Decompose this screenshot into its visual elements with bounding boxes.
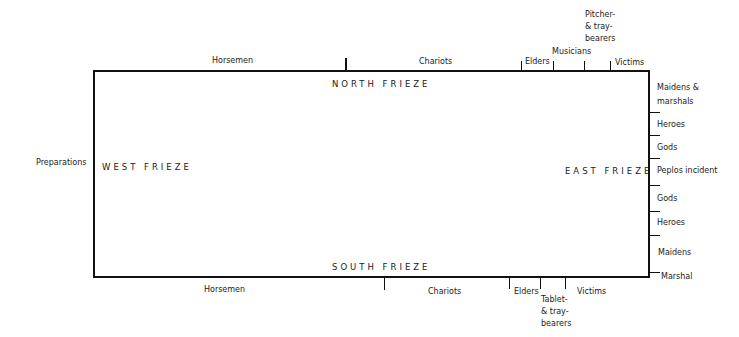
north-divider-tick — [584, 61, 585, 71]
south-section-victims: Victims — [577, 286, 606, 297]
north-section-chariots: Chariots — [419, 56, 452, 67]
south-section-elders: Elders — [514, 286, 539, 297]
north-divider-tick — [610, 61, 611, 71]
east-section-heroes-1: Heroes — [657, 119, 685, 130]
south-section-horsemen: Horsemen — [204, 284, 245, 295]
north-section-musicians: Musicians — [552, 46, 591, 57]
east-section-maidens-marshals: Maidens & marshals — [657, 81, 699, 109]
north-divider-tick — [553, 61, 554, 71]
south-divider-tick — [540, 277, 541, 289]
north-frieze-label: NORTH FRIEZE — [332, 79, 431, 89]
west-frieze-label: WEST FRIEZE — [102, 162, 192, 172]
south-section-chariots: Chariots — [428, 286, 461, 297]
south-divider-tick — [384, 277, 385, 290]
east-section-marshal: Marshal — [661, 271, 692, 282]
north-divider-tick — [521, 61, 522, 71]
east-divider-tick — [649, 158, 660, 159]
south-section-tablet-bearers: Tablet- & tray- bearers — [541, 294, 571, 330]
east-divider-tick — [649, 272, 660, 273]
east-frieze-label: EAST FRIEZE — [565, 166, 652, 176]
north-section-horsemen: Horsemen — [212, 55, 253, 66]
east-section-gods-2: Gods — [657, 193, 677, 204]
east-divider-tick — [649, 135, 660, 136]
east-section-gods-1: Gods — [657, 142, 677, 153]
east-section-heroes-2: Heroes — [657, 217, 685, 228]
east-section-maidens: Maidens — [658, 247, 691, 258]
east-divider-tick — [649, 112, 660, 113]
south-divider-tick — [509, 277, 510, 289]
east-section-peplos-incident: Peplos incident — [657, 165, 718, 176]
east-divider-tick — [649, 211, 660, 212]
east-divider-tick — [649, 185, 660, 186]
north-section-pitcher-bearers: Pitcher- & tray- bearers — [585, 9, 615, 45]
east-divider-tick — [649, 235, 660, 236]
south-frieze-label: SOUTH FRIEZE — [332, 262, 430, 272]
north-divider-tick — [345, 58, 347, 71]
north-section-victims: Victims — [615, 57, 644, 68]
north-section-elders: Elders — [525, 56, 550, 67]
west-section-preparations: Preparations — [36, 157, 86, 168]
south-divider-tick — [565, 277, 566, 289]
